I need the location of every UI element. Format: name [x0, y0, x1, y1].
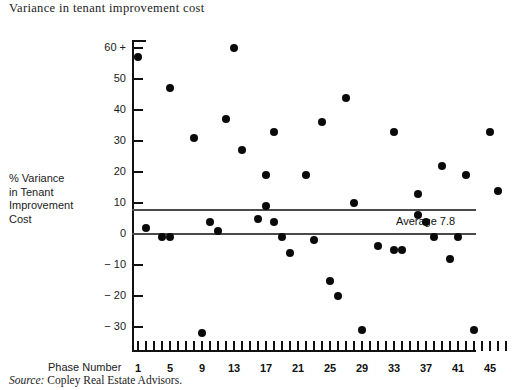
y-axis-tick-label: 60 +	[90, 41, 126, 53]
y-axis-tick-label: 10	[90, 196, 126, 208]
x-axis-tick-label: 17	[253, 362, 279, 374]
scatter-point	[310, 236, 318, 244]
scatter-point	[350, 199, 358, 207]
scatter-point	[446, 255, 454, 263]
y-axis-tick-label: − 30	[90, 320, 126, 332]
scatter-point	[238, 146, 246, 154]
scatter-point	[214, 227, 222, 235]
scatter-point	[454, 233, 462, 241]
y-axis-tick-labels: 60 +50403020100− 10− 20− 30	[86, 0, 126, 390]
scatter-point	[270, 128, 278, 136]
scatter-point	[318, 118, 326, 126]
scatter-point	[422, 218, 430, 226]
y-axis-tick-label: 30	[90, 134, 126, 146]
x-axis-tick-label: 33	[381, 362, 407, 374]
y-axis-title-line-4: Cost	[9, 213, 87, 227]
x-axis-tick-label: 1	[125, 362, 151, 374]
y-axis-title-line-3: Improvement	[9, 199, 87, 213]
y-axis-tick-label: 0	[90, 227, 126, 239]
scatter-point	[270, 218, 278, 226]
scatter-point	[206, 218, 214, 226]
scatter-point	[142, 224, 150, 232]
y-axis-tick-label: − 10	[90, 258, 126, 270]
scatter-point	[222, 115, 230, 123]
x-axis-tick-label: 25	[317, 362, 343, 374]
source-text: Copley Real Estate Advisors.	[47, 374, 182, 386]
x-axis-tick-label: 13	[221, 362, 247, 374]
scatter-point	[438, 162, 446, 170]
scatter-point	[326, 277, 334, 285]
scatter-point	[414, 190, 422, 198]
y-axis-title-line-2: in Tenant	[9, 186, 87, 200]
scatter-point	[430, 233, 438, 241]
x-axis-tick	[489, 341, 490, 351]
x-axis-tick	[481, 341, 482, 351]
source-note: Source: Copley Real Estate Advisors.	[9, 374, 182, 386]
scatter-point	[262, 171, 270, 179]
x-axis-tick	[505, 341, 506, 351]
scatter-point	[374, 242, 382, 250]
scatter-point	[286, 249, 294, 257]
x-axis-tick-label: 37	[413, 362, 439, 374]
scatter-point	[166, 233, 174, 241]
x-axis-tick-label: 21	[285, 362, 311, 374]
scatter-point	[414, 211, 422, 219]
scatter-point	[278, 233, 286, 241]
scatter-point	[166, 84, 174, 92]
x-axis-tick-label: 45	[477, 362, 503, 374]
y-axis-tick-label: − 20	[90, 289, 126, 301]
scatter-point	[398, 246, 406, 254]
y-axis-tick-label: 20	[90, 165, 126, 177]
scatter-point	[342, 94, 350, 102]
source-label: Source:	[9, 374, 44, 386]
scatter-plot-area	[132, 40, 476, 352]
scatter-point	[230, 44, 238, 52]
x-axis-tick-label: 41	[445, 362, 471, 374]
x-axis-tick-label: 5	[157, 362, 183, 374]
scatter-point	[158, 233, 166, 241]
scatter-point	[190, 134, 198, 142]
scatter-point	[390, 246, 398, 254]
y-axis-title-line-1: % Variance	[9, 172, 87, 186]
scatter-point	[358, 326, 366, 334]
scatter-point	[262, 202, 270, 210]
scatter-point	[486, 128, 494, 136]
scatter-point	[494, 187, 502, 195]
scatter-point	[462, 171, 470, 179]
scatter-point	[470, 326, 478, 334]
scatter-point	[302, 171, 310, 179]
scatter-point	[254, 215, 262, 223]
y-axis-tick-label: 40	[90, 103, 126, 115]
y-axis-title: % Variance in Tenant Improvement Cost	[9, 172, 87, 226]
y-axis-tick-label: 50	[90, 72, 126, 84]
x-axis-tick-label: 29	[349, 362, 375, 374]
scatter-point	[390, 128, 398, 136]
scatter-point	[134, 53, 142, 61]
scatter-point	[334, 292, 342, 300]
scatter-point	[198, 329, 206, 337]
x-axis-tick-label: 9	[189, 362, 215, 374]
x-axis-tick	[497, 341, 498, 351]
